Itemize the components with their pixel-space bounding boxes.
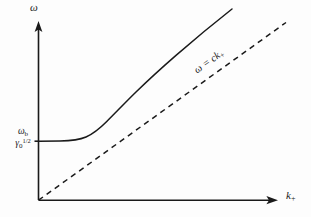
cutoff-numerator-symbol: ω — [18, 126, 25, 136]
y-axis-label: ω — [30, 2, 38, 13]
cutoff-frequency-label: ωb γ01/2 — [8, 127, 38, 151]
dispersion-branch-curve — [39, 9, 233, 141]
dispersion-relation-figure: ω k+ ω = ck+ ωb γ01/2 — [0, 0, 311, 217]
x-axis-label-subscript: + — [291, 194, 296, 203]
cutoff-denominator: γ01/2 — [15, 138, 31, 150]
plot-canvas — [0, 0, 311, 217]
light-line-asymptote — [39, 23, 287, 201]
cutoff-denominator-exponent: 1/2 — [22, 137, 30, 144]
x-axis — [39, 196, 279, 204]
y-axis — [35, 21, 43, 200]
x-axis-label: k+ — [286, 190, 296, 203]
cutoff-fraction: ωb γ01/2 — [15, 127, 31, 151]
